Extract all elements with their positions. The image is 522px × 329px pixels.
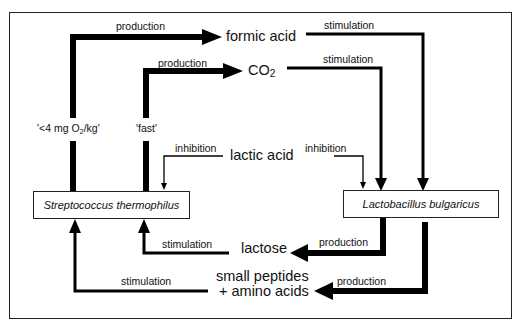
label-oxygen-condition: '<4 mg O2/kg' [37,123,100,135]
arrow-lactic-to-lacto [334,156,366,189]
label-stimulation-formic: stimulation [324,20,374,31]
node-co2: CO2 [248,63,275,79]
arrow-strep-to-co2 [146,63,243,191]
label-inhibition-right: inhibition [305,143,346,154]
lacto-label: Lactobacillus bulgaricus [363,198,480,210]
node-lactic-acid: lactic acid [230,148,294,163]
arrow-lactic-to-strep [161,156,223,190]
label-stimulation-co2: stimulation [323,54,373,65]
node-lactose: lactose [241,241,287,256]
label-production-lactose: production [319,237,368,248]
node-streptococcus-thermophilus: Streptococcus thermophilus [33,191,190,219]
strep-label: Streptococcus thermophilus [44,199,180,211]
label-production-peptides: production [337,276,386,287]
node-peptides-line2: + amino acids [219,284,309,299]
label-fast-condition: 'fast' [136,123,157,134]
label-inhibition-left: inhibition [175,143,216,154]
label-production-co2: production [158,58,207,69]
node-lactobacillus-bulgaricus: Lactobacillus bulgaricus [343,190,499,218]
label-stimulation-peptides: stimulation [121,276,171,287]
label-stimulation-lactose: stimulation [162,239,212,250]
label-production-formic: production [116,21,165,32]
arrow-lacto-to-peptides [314,222,425,300]
node-formic-acid: formic acid [226,29,296,44]
arrow-co2-to-lacto [287,68,387,191]
node-peptides-line1: small peptides [216,269,309,284]
